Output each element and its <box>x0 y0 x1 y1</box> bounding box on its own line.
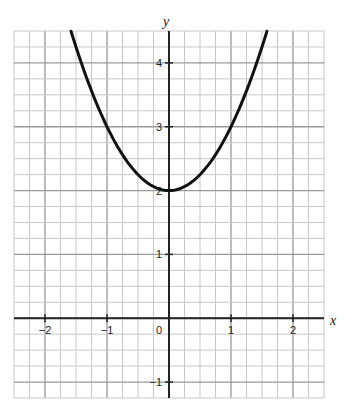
y-tick-label: 4 <box>156 57 162 69</box>
x-tick-label: −1 <box>101 324 114 336</box>
x-tick-label: 0 <box>156 324 162 336</box>
x-axis-label: x <box>329 313 337 328</box>
x-tick-label: 1 <box>228 324 234 336</box>
x-tick-label: 2 <box>290 324 296 336</box>
y-tick-label: −1 <box>149 376 162 388</box>
y-tick-label: 1 <box>156 248 162 260</box>
x-tick-label: −2 <box>39 324 52 336</box>
y-axis-label: y <box>161 14 170 29</box>
y-tick-label: 3 <box>156 121 162 133</box>
parabola-chart: −2−1012−11234 x y <box>0 0 347 415</box>
